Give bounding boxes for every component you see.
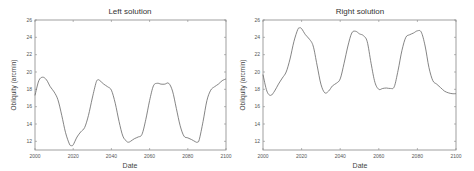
y-axis-ticks: 1214161820222426 [26,17,226,144]
figure: Left solution 1214161820222426 200020202… [0,0,474,171]
y-tick-label: 26 [254,17,260,23]
y-tick-label: 16 [254,103,260,109]
x-tick-label: 2060 [144,153,155,159]
x-tick-label: 2020 [68,153,79,159]
y-tick-label: 24 [254,34,260,40]
x-tick-label: 2080 [412,153,423,159]
x-axis-ticks: 200020202040206020802100 [29,20,231,159]
y-axis-ticks: 1214161820222426 [254,17,456,144]
y-tick-label: 24 [26,34,32,40]
y-axis-label: Obliquity (arcmin) [239,60,247,111]
y-tick-label: 14 [254,121,260,127]
x-axis-label: Date [123,162,138,169]
plot-title: Left solution [108,7,151,16]
x-tick-label: 2040 [335,153,346,159]
right-solution-plot: Right solution 1214161820222426 20002020… [239,7,462,169]
x-tick-label: 2100 [450,153,461,159]
y-axis-label: Obliquity (arcmin) [10,60,18,111]
y-tick-label: 16 [26,103,32,109]
x-tick-label: 2020 [296,153,307,159]
x-tick-label: 2060 [373,153,384,159]
y-tick-label: 18 [254,86,260,92]
y-tick-label: 22 [254,51,260,57]
plot-frame [263,20,456,150]
x-tick-label: 2000 [29,153,40,159]
y-tick-label: 12 [254,138,260,144]
x-tick-label: 2040 [106,153,117,159]
left-solution-plot: Left solution 1214161820222426 200020202… [10,7,232,169]
y-tick-label: 14 [26,121,32,127]
y-tick-label: 12 [26,138,32,144]
x-tick-label: 2100 [220,153,231,159]
y-tick-label: 22 [26,51,32,57]
y-tick-label: 20 [254,69,260,75]
y-tick-label: 26 [26,17,32,23]
x-axis-label: Date [353,162,368,169]
plot-frame [35,20,226,150]
x-axis-ticks: 200020202040206020802100 [257,20,461,159]
y-tick-label: 18 [26,86,32,92]
y-tick-label: 20 [26,69,32,75]
obliquity-curve [263,28,456,96]
obliquity-curve [35,77,226,146]
x-tick-label: 2000 [257,153,268,159]
x-tick-label: 2080 [182,153,193,159]
plot-title: Right solution [336,7,384,16]
